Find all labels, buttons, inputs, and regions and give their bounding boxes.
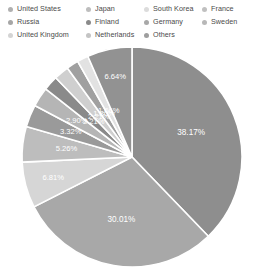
legend-marker-south-korea xyxy=(144,7,149,12)
legend-marker-france xyxy=(202,7,207,12)
legend-item-united-states[interactable]: United States xyxy=(8,3,86,15)
pie-slice-group xyxy=(22,47,242,267)
legend-column-1: JapanFinlandNetherlands xyxy=(86,3,144,42)
pie-slice-label-united-states: 38.17% xyxy=(177,128,205,137)
pie-slice-label-russia: 30.01% xyxy=(108,215,136,224)
legend-item-sweden[interactable]: Sweden xyxy=(202,16,260,28)
legend-label: Germany xyxy=(153,16,183,28)
pie-chart-figure: United StatesRussiaUnited KingdomJapanFi… xyxy=(0,0,260,271)
legend-label: United States xyxy=(17,3,61,15)
legend-label: Sweden xyxy=(211,16,237,28)
legend-item-russia[interactable]: Russia xyxy=(8,16,86,28)
legend-marker-sweden xyxy=(202,20,207,25)
legend-marker-russia xyxy=(8,20,13,25)
pie-chart-plot-area: 38.17%30.01%6.81%5.26%3.32%2.90%2.21%2.2… xyxy=(20,46,244,268)
legend-marker-united-states xyxy=(8,7,13,12)
legend-column-2: South KoreaGermanyOthers xyxy=(144,3,202,42)
pie-slice-label-japan: 5.26% xyxy=(56,144,78,153)
legend-marker-others xyxy=(144,33,149,38)
legend-item-germany[interactable]: Germany xyxy=(144,16,202,28)
legend-marker-netherlands xyxy=(86,33,91,38)
legend-item-finland[interactable]: Finland xyxy=(86,16,144,28)
legend-marker-japan xyxy=(86,7,91,12)
legend-label: Others xyxy=(153,29,175,41)
legend-label: Finland xyxy=(95,16,119,28)
legend-marker-united-kingdom xyxy=(8,33,13,38)
legend-item-france[interactable]: France xyxy=(202,3,260,15)
legend-column-3: FranceSweden xyxy=(202,3,260,29)
pie-slice-label-sweden: 6.64% xyxy=(105,72,127,81)
legend-label: France xyxy=(211,3,234,15)
pie-slice-label-united-kingdom: 6.81% xyxy=(43,173,65,182)
pie-slice-label-france: 1.66% xyxy=(98,106,120,115)
legend-label: South Korea xyxy=(153,3,194,15)
legend-item-south-korea[interactable]: South Korea xyxy=(144,3,202,15)
pie-chart-svg: 38.17%30.01%6.81%5.26%3.32%2.90%2.21%2.2… xyxy=(20,46,244,268)
legend-item-japan[interactable]: Japan xyxy=(86,3,144,15)
legend-label: United Kingdom xyxy=(17,29,69,41)
legend-item-others[interactable]: Others xyxy=(144,29,202,41)
chart-legend: United StatesRussiaUnited KingdomJapanFi… xyxy=(0,0,260,44)
legend-item-netherlands[interactable]: Netherlands xyxy=(86,29,144,41)
legend-label: Russia xyxy=(17,16,39,28)
legend-label: Japan xyxy=(95,3,115,15)
legend-label: Netherlands xyxy=(95,29,134,41)
legend-marker-germany xyxy=(144,20,149,25)
pie-slice-label-finland: 3.32% xyxy=(60,127,82,136)
legend-column-0: United StatesRussiaUnited Kingdom xyxy=(8,3,86,42)
legend-marker-finland xyxy=(86,20,91,25)
legend-item-united-kingdom[interactable]: United Kingdom xyxy=(8,29,86,41)
